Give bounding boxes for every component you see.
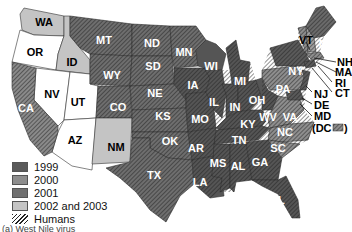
label-IN: IN — [230, 101, 241, 113]
label-IL: IL — [209, 96, 219, 108]
legend-label: 2002 and 2003 — [34, 200, 107, 212]
label-NC: NC — [277, 126, 293, 138]
legend-label: 1999 — [34, 161, 58, 173]
label-CT: CT — [335, 87, 350, 99]
figure-caption: (a) West Nile virus — [2, 224, 75, 232]
label-GA: GA — [252, 156, 269, 168]
label-WY: WY — [103, 69, 121, 81]
legend-label: 2001 — [34, 187, 58, 199]
label-PA: PA — [276, 83, 291, 95]
swatch-humans-hatch — [12, 214, 28, 224]
label-DC: (DC — [312, 122, 332, 134]
dc-swatch-hatch — [333, 124, 343, 131]
label-TN: TN — [232, 134, 247, 146]
swatch-1999 — [12, 162, 28, 172]
label-OR: OR — [27, 46, 44, 58]
label-MN: MN — [175, 46, 192, 58]
swatch-2000 — [12, 175, 28, 185]
label-TX: TX — [147, 169, 162, 181]
label-LA: LA — [193, 176, 208, 188]
label-VT: VT — [299, 34, 313, 46]
label-OK: OK — [162, 135, 179, 147]
label-MD: MD — [314, 110, 331, 122]
swatch-2001 — [12, 188, 28, 198]
legend: 1999 2000 2001 2002 and 2003 Humans — [12, 160, 107, 225]
label-WA: WA — [35, 16, 53, 28]
label-SD: SD — [145, 60, 160, 72]
label-NY: NY — [288, 65, 304, 77]
hatch-east — [262, 6, 336, 158]
label-VA: VA — [283, 111, 298, 123]
label-NE: NE — [147, 87, 162, 99]
label-ME: ME — [319, 38, 336, 50]
label-CA: CA — [18, 102, 34, 114]
label-KY: KY — [240, 118, 256, 130]
legend-label: Humans — [34, 213, 75, 225]
label-IA: IA — [188, 79, 199, 91]
label-MT: MT — [96, 34, 112, 46]
label-MO: MO — [191, 113, 209, 125]
label-NV: NV — [44, 88, 60, 100]
label-NM: NM — [107, 141, 124, 153]
label-DC-close: ) — [344, 122, 348, 134]
label-SC: SC — [270, 142, 285, 154]
label-AL: AL — [231, 160, 246, 172]
legend-item-2001: 2001 — [12, 186, 107, 199]
label-ID: ID — [67, 56, 78, 68]
label-ND: ND — [144, 37, 160, 49]
label-KS: KS — [155, 110, 170, 122]
label-WI: WI — [204, 60, 217, 72]
label-UT: UT — [71, 96, 86, 108]
label-WV: WV — [259, 111, 277, 123]
label-AR: AR — [188, 142, 204, 154]
swatch-2002-2003 — [12, 201, 28, 211]
label-AZ: AZ — [68, 134, 83, 146]
label-OH: OH — [249, 94, 266, 106]
map-figure: WA OR ID NV UT AZ CA MT WY CO NM ND SD N… — [0, 0, 352, 232]
legend-label: 2000 — [34, 174, 58, 186]
legend-item-2002-2003: 2002 and 2003 — [12, 199, 107, 212]
label-MS: MS — [210, 157, 227, 169]
label-CO: CO — [110, 101, 127, 113]
legend-item-1999: 1999 — [12, 160, 107, 173]
label-FL: FL — [271, 194, 285, 206]
label-MI: MI — [234, 75, 246, 87]
legend-item-2000: 2000 — [12, 173, 107, 186]
